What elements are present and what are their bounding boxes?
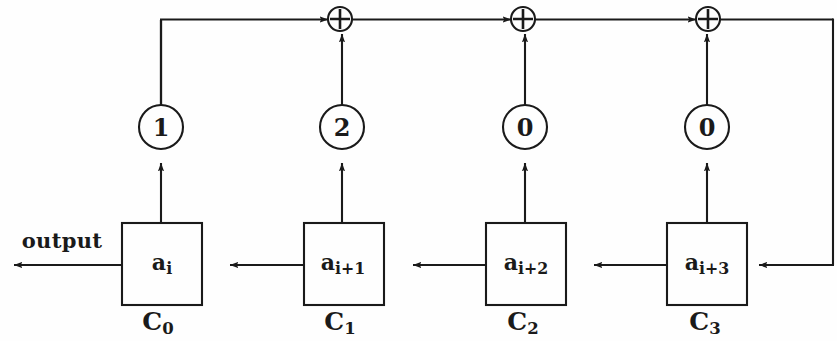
adder-plus-2 — [513, 9, 533, 29]
cell-caption-index-c0: 0 — [162, 319, 173, 338]
cell-state-c3: a — [685, 249, 699, 275]
cell-index-c2: i+2 — [518, 259, 548, 278]
cell-caption-c3: C3 — [689, 309, 720, 338]
adder-plus-3 — [698, 9, 718, 29]
output-label: output — [22, 230, 102, 251]
tap-value-c1: 2 — [334, 116, 351, 140]
cell-caption-index-c2: 2 — [527, 319, 538, 338]
cell-label-c3: ai+3 — [685, 251, 730, 277]
cell-caption-text-c0: C — [142, 307, 162, 336]
cell-index-c1: i+1 — [335, 259, 365, 278]
cell-state-c1: a — [321, 249, 335, 275]
cell-caption-text-c2: C — [507, 307, 527, 336]
cell-caption-text-c3: C — [689, 307, 709, 336]
tap-value-c0: 1 — [153, 116, 170, 140]
cell-caption-index-c3: 3 — [709, 319, 720, 338]
cell-caption-c0: C0 — [142, 309, 173, 338]
cell-index-c0: i — [166, 259, 172, 278]
cell-label-c1: ai+1 — [321, 251, 366, 277]
cell-caption-c1: C1 — [324, 309, 355, 338]
cell-label-c2: ai+2 — [504, 251, 549, 277]
cell-caption-index-c1: 1 — [344, 319, 355, 338]
cell-caption-c2: C2 — [507, 309, 538, 338]
diagram-canvas — [0, 0, 837, 341]
cell-state-c0: a — [152, 249, 166, 275]
tap-value-c3: 0 — [699, 116, 716, 140]
adder-plus-1 — [330, 9, 350, 29]
lfsr-diagram: output 1 2 0 0 ai ai+1 ai+2 ai+3 C0 C1 C… — [0, 0, 837, 341]
cell-state-c2: a — [504, 249, 518, 275]
tap-value-c2: 0 — [517, 116, 534, 140]
cell-label-c0: ai — [152, 251, 172, 277]
cell-index-c3: i+3 — [699, 259, 729, 278]
cell-caption-text-c1: C — [324, 307, 344, 336]
